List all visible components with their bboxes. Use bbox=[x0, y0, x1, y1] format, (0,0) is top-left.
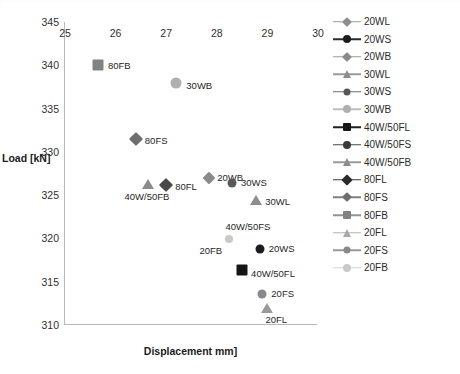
legend-item-label: 40W/50FB bbox=[364, 157, 411, 168]
data-point-40w-50fb bbox=[142, 179, 154, 189]
data-point-80fb bbox=[92, 60, 103, 71]
data-point-20wb bbox=[203, 171, 216, 184]
legend-marker-triangle-icon bbox=[343, 158, 351, 166]
legend-marker-circle-icon bbox=[343, 264, 351, 272]
plot-frame: 310315320325330335340345 252627282930 20… bbox=[64, 22, 317, 325]
plot-area: 20WS20WB30WL30WS30WB40W/50FL40W/50FS40W/… bbox=[65, 22, 317, 324]
data-label-40w-50fs: 40W/50FS bbox=[225, 221, 270, 232]
data-point-20fb bbox=[225, 235, 233, 243]
legend-marker-triangle-icon bbox=[343, 70, 351, 78]
legend-marker-square-icon bbox=[343, 123, 351, 131]
legend-item-20fb[interactable]: 20FB bbox=[333, 262, 457, 273]
legend-item-label: 20FB bbox=[364, 262, 388, 273]
data-point-30ws bbox=[227, 179, 236, 188]
legend-key bbox=[333, 192, 361, 203]
legend-marker-circle-icon bbox=[344, 247, 351, 254]
data-point-80fs bbox=[129, 132, 143, 146]
legend-key bbox=[333, 262, 361, 273]
legend-item-label: 20FS bbox=[364, 245, 388, 256]
y-tick-label: 330 bbox=[41, 146, 59, 158]
legend-item-label: 40W/50FS bbox=[364, 139, 411, 150]
x-axis-title: Displacement mm] bbox=[64, 345, 317, 357]
legend-item-80fb[interactable]: 80FB bbox=[333, 210, 457, 221]
data-point-30wl bbox=[250, 195, 262, 205]
legend-item-label: 20FL bbox=[364, 227, 387, 238]
legend-key bbox=[333, 210, 361, 221]
data-label-40w-50fb: 40W/50FB bbox=[124, 191, 169, 202]
legend-marker-circle-icon bbox=[343, 35, 351, 43]
legend-item-80fl[interactable]: 80FL bbox=[333, 174, 457, 185]
data-label-20fb: 20FB bbox=[199, 245, 222, 256]
legend-key bbox=[333, 16, 361, 27]
legend-item-label: 20WS bbox=[364, 34, 391, 45]
data-label-20ws: 20WS bbox=[269, 243, 295, 254]
legend-key bbox=[333, 245, 361, 256]
legend-marker-circle-icon bbox=[343, 141, 351, 149]
data-label-20fl: 20FL bbox=[265, 314, 287, 325]
legend-key bbox=[333, 86, 361, 97]
legend-item-label: 20WB bbox=[364, 51, 391, 62]
data-point-20fs bbox=[258, 289, 267, 298]
legend-key bbox=[333, 139, 361, 150]
data-point-30wb bbox=[171, 77, 182, 88]
legend-item-label: 30WS bbox=[364, 86, 391, 97]
legend-key bbox=[333, 69, 361, 80]
data-label-40w-50fl: 40W/50FL bbox=[251, 268, 295, 279]
legend-item-20ws[interactable]: 20WS bbox=[333, 34, 457, 45]
legend-item-20wl[interactable]: 20WL bbox=[333, 16, 457, 27]
data-point-80fl bbox=[159, 178, 173, 192]
legend-item-label: 20WL bbox=[364, 16, 390, 27]
legend-key bbox=[333, 227, 361, 238]
data-point-20fl bbox=[261, 303, 273, 313]
y-tick-label: 315 bbox=[41, 276, 59, 288]
legend-marker-square-icon bbox=[343, 211, 351, 219]
legend-key bbox=[333, 34, 361, 45]
legend-item-label: 30WL bbox=[364, 69, 390, 80]
legend-item-20fs[interactable]: 20FS bbox=[333, 245, 457, 256]
legend-item-30wb[interactable]: 30WB bbox=[333, 104, 457, 115]
y-tick-label: 325 bbox=[41, 189, 59, 201]
data-label-20fs: 20FS bbox=[271, 288, 294, 299]
legend-item-30ws[interactable]: 30WS bbox=[333, 86, 457, 97]
y-tick-label: 345 bbox=[41, 16, 59, 28]
legend-marker-diamond-icon bbox=[342, 192, 352, 202]
legend-item-40w-50fl[interactable]: 40W/50FL bbox=[333, 122, 457, 133]
data-point-40w-50fl bbox=[237, 264, 248, 275]
legend-marker-diamond-icon bbox=[342, 17, 352, 27]
legend-item-20wb[interactable]: 20WB bbox=[333, 51, 457, 62]
data-label-30wb: 30WB bbox=[186, 80, 212, 91]
chart-legend: 20WL20WS20WB30WL30WS30WB40W/50FL40W/50FS… bbox=[333, 16, 457, 273]
legend-item-label: 80FL bbox=[364, 174, 387, 185]
legend-key bbox=[333, 122, 361, 133]
y-tick-label: 340 bbox=[41, 59, 59, 71]
legend-key bbox=[333, 174, 361, 185]
y-tick-label: 320 bbox=[41, 232, 59, 244]
scatter-chart: Load [kN] Displacement mm] 3103153203253… bbox=[0, 0, 460, 374]
data-label-80fl: 80FL bbox=[175, 181, 197, 192]
legend-item-label: 30WB bbox=[364, 104, 391, 115]
legend-marker-triangle-icon bbox=[343, 229, 351, 237]
data-point-20ws bbox=[255, 244, 264, 253]
legend-item-label: 80FB bbox=[364, 210, 388, 221]
legend-marker-circle-icon bbox=[344, 88, 351, 95]
legend-key bbox=[333, 104, 361, 115]
legend-marker-diamond-icon bbox=[342, 52, 352, 62]
data-label-80fs: 80FS bbox=[145, 135, 168, 146]
y-tick-label: 310 bbox=[41, 319, 59, 331]
legend-marker-diamond-icon bbox=[341, 174, 352, 185]
y-tick-label: 335 bbox=[41, 103, 59, 115]
legend-marker-circle-icon bbox=[343, 105, 351, 113]
legend-item-label: 80FS bbox=[364, 192, 388, 203]
legend-item-40w-50fs[interactable]: 40W/50FS bbox=[333, 139, 457, 150]
legend-key bbox=[333, 51, 361, 62]
legend-key bbox=[333, 157, 361, 168]
legend-item-40w-50fb[interactable]: 40W/50FB bbox=[333, 157, 457, 168]
legend-item-label: 40W/50FL bbox=[364, 122, 410, 133]
legend-item-80fs[interactable]: 80FS bbox=[333, 192, 457, 203]
data-label-80fb: 80FB bbox=[108, 60, 131, 71]
data-label-30wl: 30WL bbox=[265, 196, 290, 207]
legend-item-30wl[interactable]: 30WL bbox=[333, 69, 457, 80]
legend-item-20fl[interactable]: 20FL bbox=[333, 227, 457, 238]
data-label-30ws: 30WS bbox=[241, 177, 267, 188]
